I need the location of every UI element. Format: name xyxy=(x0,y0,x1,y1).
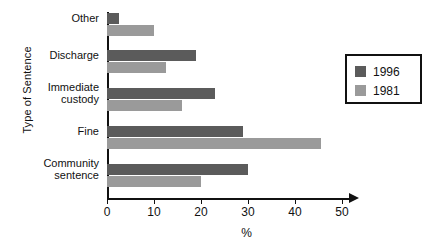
bar-1996-fine xyxy=(107,126,243,137)
category-label-community-sentence: Community sentence xyxy=(7,157,99,181)
bar-chart: Type of Sentence Other Discharge Immedia… xyxy=(0,0,433,251)
category-label-discharge: Discharge xyxy=(7,49,99,61)
bar-1981-immediate-custody xyxy=(107,100,182,111)
x-tick-50 xyxy=(342,198,343,204)
bar-1981-other xyxy=(107,25,154,36)
x-tick-label-30: 30 xyxy=(233,205,263,219)
legend-swatch-1981 xyxy=(355,85,366,96)
legend-label-1981: 1981 xyxy=(373,84,400,98)
x-tick-0 xyxy=(107,198,108,204)
category-label-other: Other xyxy=(7,12,99,24)
x-tick-10 xyxy=(154,198,155,204)
legend: 1996 1981 xyxy=(345,54,422,104)
x-tick-label-0: 0 xyxy=(92,205,122,219)
x-tick-30 xyxy=(248,198,249,204)
legend-label-1996: 1996 xyxy=(373,65,400,79)
category-label-immediate-custody: Immediate custody xyxy=(7,81,99,105)
bar-1981-fine xyxy=(107,138,321,149)
bar-1981-discharge xyxy=(107,62,166,73)
x-tick-label-10: 10 xyxy=(139,205,169,219)
x-axis-line xyxy=(107,198,351,200)
plot-area: Other Discharge Immediate custody Fine C… xyxy=(107,12,357,198)
bar-1996-discharge xyxy=(107,50,196,61)
legend-entry-1981: 1981 xyxy=(355,81,420,100)
bar-1996-other xyxy=(107,13,119,24)
category-label-fine: Fine xyxy=(7,125,99,137)
x-tick-label-40: 40 xyxy=(280,205,310,219)
legend-entry-1996: 1996 xyxy=(355,62,420,81)
x-tick-20 xyxy=(201,198,202,204)
bar-1981-community-sentence xyxy=(107,176,201,187)
bar-1996-immediate-custody xyxy=(107,88,215,99)
x-tick-40 xyxy=(295,198,296,204)
x-tick-label-50: 50 xyxy=(327,205,357,219)
bar-1996-community-sentence xyxy=(107,164,248,175)
legend-swatch-1996 xyxy=(355,66,366,77)
x-tick-label-20: 20 xyxy=(186,205,216,219)
x-axis-title: % xyxy=(0,226,433,240)
